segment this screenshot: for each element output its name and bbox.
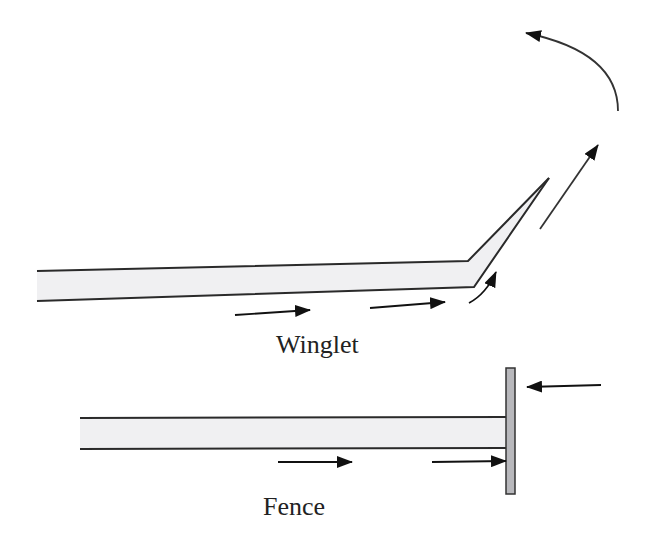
flow-arrow-1 — [235, 310, 310, 315]
fence-flow-arrow-2 — [432, 461, 506, 462]
winglet-label: Winglet — [276, 330, 359, 360]
diagram-canvas — [0, 0, 648, 542]
fence-plate — [506, 368, 515, 494]
flow-arrow-up-winglet — [540, 145, 598, 229]
fence-label: Fence — [263, 492, 325, 522]
winglet-wing — [37, 178, 549, 301]
fence-flow-arrow-3 — [527, 385, 601, 387]
vortex-curl-arrow — [526, 33, 618, 111]
flow-arrow-2 — [370, 302, 445, 308]
fence-wing — [80, 368, 515, 494]
